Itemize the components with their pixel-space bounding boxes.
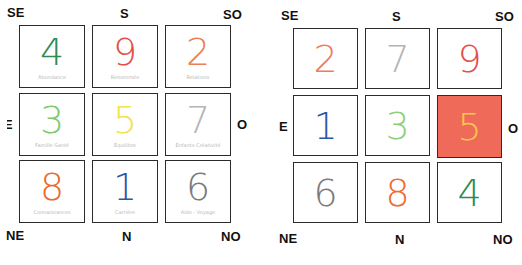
- cell-famille-sante: 3 Famille-Santé: [19, 93, 85, 156]
- cell-label: Famille-Santé: [20, 142, 84, 148]
- direction-no: NO: [221, 230, 241, 243]
- cell-number: 7: [166, 98, 230, 142]
- cell-se: 2: [293, 28, 358, 89]
- cell-no: 4: [437, 162, 502, 223]
- cell-number: 3: [366, 104, 429, 148]
- cell-label: Relations: [166, 74, 230, 80]
- direction-s: S: [120, 7, 129, 20]
- cell-ne: 6: [293, 162, 358, 223]
- direction-ne: NE: [6, 229, 24, 242]
- cell-number: 5: [438, 105, 501, 149]
- cell-abondance: 4 Abondance: [19, 25, 85, 88]
- cell-e: 1: [293, 95, 358, 156]
- direction-se: SE: [281, 9, 298, 22]
- cell-number: 6: [294, 171, 357, 215]
- cell-number: 3: [20, 98, 84, 142]
- cell-label: Carrière: [93, 209, 157, 215]
- cell-s: 7: [365, 28, 430, 89]
- cell-relations: 2 Relations: [165, 25, 231, 88]
- direction-so: SO: [495, 10, 514, 23]
- cell-number: 6: [166, 165, 230, 209]
- direction-e: E: [4, 118, 13, 131]
- cell-number: 5: [93, 98, 157, 142]
- cell-label: Connaissances: [20, 209, 84, 215]
- cell-o-highlighted: 5: [437, 95, 502, 158]
- cell-equilibre: 5 Equilibre: [92, 93, 158, 156]
- direction-n: N: [122, 230, 131, 243]
- cell-center: 3: [365, 95, 430, 156]
- cell-so: 9: [437, 28, 502, 89]
- cell-n: 8: [365, 162, 430, 223]
- cell-number: 2: [294, 37, 357, 81]
- cell-aide-voyage: 6 Aide - Voyage: [165, 160, 231, 223]
- cell-number: 4: [438, 171, 501, 215]
- cell-number: 9: [93, 30, 157, 74]
- direction-o: O: [508, 122, 518, 135]
- cell-renommee: 9 Renommée: [92, 25, 158, 88]
- cell-label: Renommée: [93, 74, 157, 80]
- direction-o: O: [237, 118, 247, 131]
- direction-se: SE: [7, 6, 24, 19]
- direction-no: NO: [493, 233, 513, 246]
- cell-number: 1: [294, 104, 357, 148]
- cell-label: Enfants-Créativité: [166, 142, 230, 148]
- cell-number: 2: [166, 30, 230, 74]
- direction-s: S: [392, 10, 401, 23]
- cell-label: Aide - Voyage: [166, 209, 230, 215]
- cell-number: 7: [366, 37, 429, 81]
- cell-number: 1: [93, 165, 157, 209]
- cell-number: 9: [438, 37, 501, 81]
- direction-n: N: [395, 233, 404, 246]
- cell-number: 8: [366, 171, 429, 215]
- direction-ne: NE: [279, 232, 297, 245]
- cell-connaissances: 8 Connaissances: [19, 160, 85, 223]
- cell-number: 8: [20, 165, 84, 209]
- cell-label: Abondance: [20, 74, 84, 80]
- cell-number: 4: [20, 30, 84, 74]
- direction-so: SO: [223, 8, 242, 21]
- cell-carriere: 1 Carrière: [92, 160, 158, 223]
- cell-label: Equilibre: [93, 142, 157, 148]
- direction-e: E: [279, 120, 288, 133]
- cell-enfants-creativite: 7 Enfants-Créativité: [165, 93, 231, 156]
